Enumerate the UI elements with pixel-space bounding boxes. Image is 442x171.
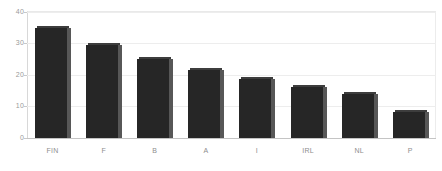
xtick-label-6: NL: [334, 146, 385, 155]
bar-side-2: [169, 59, 173, 138]
xtick-label-2: B: [129, 146, 180, 155]
xtick-label-7: P: [385, 146, 436, 155]
bar-top-6: [344, 92, 376, 94]
bar-group-1: [78, 12, 129, 138]
xtick-label-5: IRL: [283, 146, 334, 155]
bar-group-0: [27, 12, 78, 138]
bar-top-2: [139, 57, 171, 59]
bar-1[interactable]: [86, 45, 118, 138]
bar-side-0: [67, 28, 71, 138]
bar-side-5: [323, 87, 327, 138]
xtick-label-1: F: [78, 146, 129, 155]
bar-side-6: [374, 94, 378, 138]
bar-top-1: [88, 43, 120, 45]
bars-layer: FIN F B A I IRL: [27, 0, 436, 171]
bar-3[interactable]: [188, 70, 220, 138]
bar-0[interactable]: [35, 28, 67, 138]
bar-5[interactable]: [291, 87, 323, 138]
xtick-label-3: A: [180, 146, 231, 155]
bar-top-3: [190, 68, 222, 70]
bar-top-4: [241, 77, 273, 79]
bar-group-6: [334, 12, 385, 138]
bar-side-4: [271, 79, 275, 138]
bar-top-0: [37, 26, 69, 28]
bar-top-5: [293, 85, 325, 87]
ytick-label-30: 30: [4, 39, 24, 47]
bar-4[interactable]: [239, 79, 271, 138]
xtick-label-4: I: [231, 146, 282, 155]
ytick-label-10: 10: [4, 102, 24, 110]
bar-group-4: [231, 12, 282, 138]
bar-side-1: [118, 45, 122, 138]
ytick-label-20: 20: [4, 71, 24, 79]
ytick-label-40: 40: [4, 8, 24, 16]
bar-6[interactable]: [342, 94, 374, 138]
ytick-label-0: 0: [4, 134, 24, 142]
bar-top-7: [395, 110, 427, 112]
bar-2[interactable]: [137, 59, 169, 138]
bar-side-7: [425, 112, 429, 138]
bar-chart: 40 30 20 10 0 FIN F B: [0, 0, 442, 171]
bar-group-3: [180, 12, 231, 138]
bar-7[interactable]: [393, 112, 425, 138]
bar-side-3: [220, 70, 224, 138]
bar-group-7: [385, 12, 436, 138]
bar-group-5: [283, 12, 334, 138]
xtick-label-0: FIN: [27, 146, 78, 155]
bar-group-2: [129, 12, 180, 138]
